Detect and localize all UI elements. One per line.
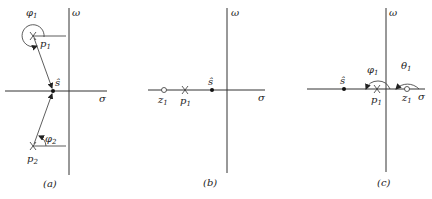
pole-label-p1: p1: [371, 94, 382, 107]
pole-p1: φ1 p1: [22, 7, 66, 88]
angle-label-theta1: θ1: [401, 60, 412, 73]
sigma-label: σ: [99, 93, 107, 104]
test-point-s: [342, 87, 346, 91]
pole-label-p2: p2: [27, 153, 38, 166]
zero-label-z1: z1: [401, 92, 412, 105]
panel-a: ω σ φ1 p1 ŝ φ2 p2 (a): [5, 7, 107, 189]
angle-label-phi2: φ2: [45, 133, 57, 146]
sigma-label: σ: [258, 92, 266, 103]
caption-b: (b): [203, 177, 217, 188]
panel-b: ω σ z1 p1 ŝ (b): [148, 7, 266, 188]
root-locus-figure: ω σ φ1 p1 ŝ φ2 p2 (a) ω σ: [0, 0, 432, 199]
omega-label: ω: [72, 7, 80, 18]
omega-label: ω: [231, 7, 239, 18]
pole-label-p1: p1: [40, 38, 51, 51]
test-point-label: ŝ: [208, 76, 213, 87]
pole-p2: φ2 p2: [27, 94, 66, 166]
zero-label-z1: z1: [157, 94, 168, 107]
test-point-label: ŝ: [55, 77, 60, 88]
test-point-label: ŝ: [340, 75, 345, 86]
angle-label-phi1: φ1: [367, 64, 378, 77]
test-point-s: [210, 88, 214, 92]
sigma-label: σ: [418, 91, 426, 102]
caption-c: (c): [377, 177, 391, 188]
angle-label-phi1: φ1: [26, 7, 37, 20]
zero-z1: [162, 88, 167, 93]
zero-z1: [405, 87, 410, 92]
pole-label-p1: p1: [180, 95, 191, 108]
caption-a: (a): [43, 178, 57, 189]
test-point-s: [51, 89, 55, 93]
panel-c: ω σ ŝ φ1 p1 θ1 z1 (c): [307, 7, 426, 188]
omega-label: ω: [389, 7, 397, 18]
